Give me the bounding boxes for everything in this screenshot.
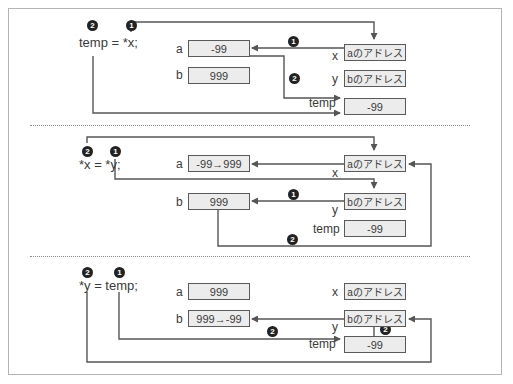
- var-label-b: b: [176, 68, 183, 82]
- var-label-x: x: [332, 49, 338, 63]
- var-box-temp: -99: [344, 98, 406, 115]
- var-label-x: x: [332, 285, 338, 299]
- arrow-marker: 1: [288, 36, 299, 47]
- var-box-y: bのアドレス: [344, 310, 406, 327]
- step-marker: 1: [114, 267, 125, 278]
- var-box-temp: -99: [344, 336, 406, 353]
- arrow-marker: 2: [289, 73, 300, 84]
- var-label-temp: temp: [309, 337, 336, 351]
- arrow-marker: 2: [267, 326, 278, 337]
- var-label-a: a: [176, 42, 183, 56]
- var-label-temp: temp: [309, 96, 336, 110]
- step-marker: 2: [87, 20, 98, 31]
- var-box-a: -99: [188, 40, 250, 57]
- step-marker: 2: [82, 267, 93, 278]
- var-box-x: aのアドレス: [344, 283, 406, 300]
- var-label-a: a: [176, 157, 183, 171]
- var-box-x: aのアドレス: [344, 155, 406, 172]
- step-marker: 1: [110, 146, 121, 157]
- code-statement: *y = temp;: [79, 278, 138, 293]
- pointer-arrows: [0, 0, 513, 384]
- code-statement: temp = *x;: [79, 35, 138, 50]
- step-marker: 1: [126, 20, 137, 31]
- arrow-marker: 1: [288, 189, 299, 200]
- var-box-b: 999: [188, 67, 250, 84]
- var-label-x: x: [332, 166, 338, 180]
- var-label-y: y: [332, 203, 338, 217]
- step-marker: 2: [82, 146, 93, 157]
- var-label-b: b: [176, 312, 183, 326]
- var-label-b: b: [176, 195, 183, 209]
- var-box-y: bのアドレス: [344, 193, 406, 210]
- var-box-a: 999: [188, 283, 250, 300]
- var-box-temp: -99: [344, 220, 406, 237]
- var-label-a: a: [176, 285, 183, 299]
- arrow-marker: 2: [287, 234, 298, 245]
- var-box-x: aのアドレス: [344, 44, 406, 61]
- var-box-y: bのアドレス: [344, 70, 406, 87]
- var-box-b: 999→-99: [188, 310, 250, 327]
- var-box-b: 999: [188, 193, 250, 210]
- var-label-y: y: [332, 320, 338, 334]
- var-box-a: -99→999: [188, 155, 250, 172]
- var-label-temp: temp: [313, 222, 340, 236]
- var-label-y: y: [332, 72, 338, 86]
- code-statement: *x = *y;: [79, 157, 121, 172]
